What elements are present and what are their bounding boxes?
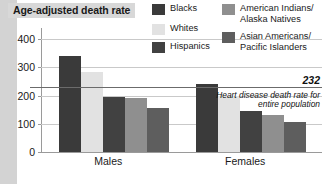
y-axis-tick-label: 0	[29, 146, 35, 158]
y-axis-tick	[38, 96, 41, 97]
y-axis-tick	[38, 152, 41, 153]
y-axis-tick-label: 100	[17, 118, 35, 130]
reference-line-232	[30, 87, 322, 88]
bar	[59, 56, 81, 152]
y-axis-tick-label: 300	[17, 61, 35, 73]
legend-label: Blacks	[170, 3, 197, 14]
x-axis-group-label: Females	[190, 155, 301, 167]
legend-swatch	[152, 24, 165, 35]
y-axis-tick	[38, 67, 41, 68]
y-axis-tick	[38, 39, 41, 40]
legend-swatch	[222, 4, 235, 15]
legend-swatch	[152, 42, 165, 53]
reference-note: Heart disease death rate for entire popu…	[210, 91, 320, 110]
y-axis-tick-label: 200	[17, 90, 35, 102]
y-axis-tick	[38, 124, 41, 125]
bar	[262, 115, 284, 152]
y-axis-labels: 0100200300400	[0, 28, 38, 152]
chart-root: Age-adjusted death rate 0100200300400 23…	[0, 0, 323, 184]
legend-label: Asian Americans/Pacific Islanders	[240, 31, 311, 52]
bar	[81, 72, 103, 152]
bar	[240, 111, 262, 152]
x-axis-group-label: Males	[53, 155, 164, 167]
reference-value-label: 232	[302, 74, 320, 86]
legend-label: Whites	[170, 23, 198, 34]
page-title: Age-adjusted death rate	[8, 3, 135, 18]
legend: BlacksWhitesHispanicsAmerican Indians/Al…	[152, 2, 323, 64]
x-axis-line	[41, 152, 322, 153]
legend-label: Hispanics	[170, 41, 210, 52]
bar	[284, 122, 306, 152]
y-axis-tick-label: 400	[17, 33, 35, 45]
legend-swatch	[152, 4, 165, 15]
legend-swatch	[222, 32, 235, 43]
gridline	[41, 67, 322, 68]
bar	[125, 98, 147, 152]
legend-label: American Indians/Alaska Natives	[240, 3, 314, 24]
bar	[103, 97, 125, 152]
bar	[147, 108, 169, 152]
